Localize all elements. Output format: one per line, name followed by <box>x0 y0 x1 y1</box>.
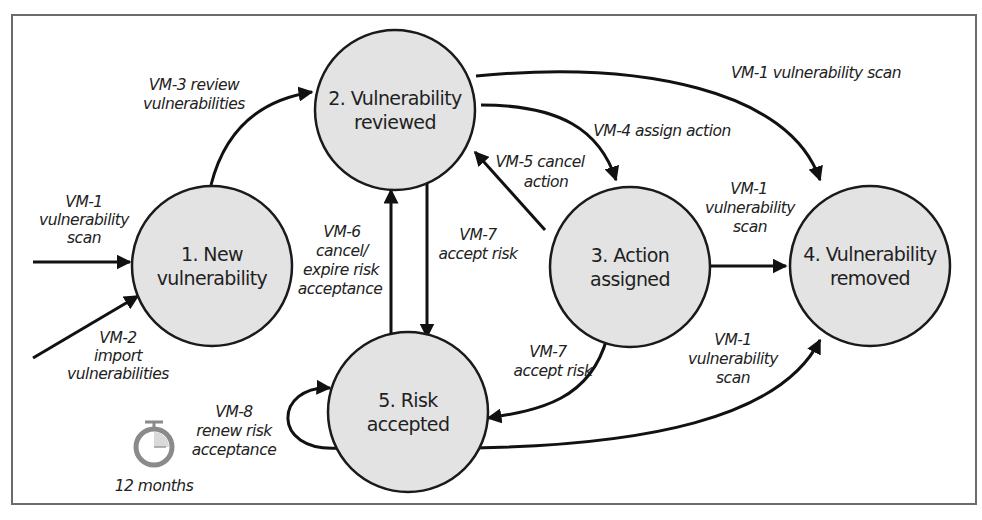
edge-label-vm2-import: VM-2 import vulnerabilities <box>67 329 169 383</box>
node-label-line2: accepted <box>367 413 450 435</box>
svg-text:acceptance: acceptance <box>192 441 276 459</box>
svg-text:acceptance: acceptance <box>298 280 382 298</box>
svg-text:VM-7: VM-7 <box>459 226 497 244</box>
node-label-line1: 2. Vulnerability <box>328 87 462 109</box>
svg-text:VM-4 assign action: VM-4 assign action <box>593 122 731 140</box>
edge-label-vm3-review: VM-3 review vulnerabilities <box>143 76 245 113</box>
svg-text:action: action <box>524 173 569 191</box>
svg-text:scan: scan <box>67 229 101 247</box>
edge-label-vm5-cancel: VM-5 cancel action <box>495 153 585 191</box>
svg-text:scan: scan <box>733 218 767 236</box>
svg-text:VM-1 vulnerability scan: VM-1 vulnerability scan <box>731 64 901 82</box>
svg-text:vulnerabilities: vulnerabilities <box>143 95 245 113</box>
svg-text:accept risk: accept risk <box>438 245 519 263</box>
edge-label-vm7-accept-from-assigned: VM-7 accept risk <box>513 343 594 380</box>
edge-label-vm7-accept-from-reviewed: VM-7 accept risk <box>438 226 519 263</box>
edge-label-vm1-reviewed-to-removed: VM-1 vulnerability scan <box>731 64 901 82</box>
timer-label: 12 months <box>115 477 194 495</box>
edge-label-vm4-assign: VM-4 assign action <box>593 122 731 140</box>
node-label-line2: removed <box>830 267 910 289</box>
svg-text:cancel/: cancel/ <box>316 242 370 260</box>
node-label-line1: 4. Vulnerability <box>803 243 937 265</box>
svg-text:import: import <box>94 347 144 365</box>
node-label-line2: assigned <box>590 268 670 290</box>
svg-text:accept risk: accept risk <box>513 362 594 380</box>
edge-label-vm1-external: VM-1 vulnerability scan <box>39 193 130 247</box>
svg-text:vulnerability: vulnerability <box>39 211 130 229</box>
svg-text:scan: scan <box>716 369 750 387</box>
svg-text:VM-6: VM-6 <box>323 223 361 241</box>
edge-label-vm1-assigned-to-removed: VM-1 vulnerability scan <box>705 180 796 236</box>
svg-text:vulnerability: vulnerability <box>705 199 796 217</box>
svg-text:VM-1: VM-1 <box>65 193 102 211</box>
svg-text:VM-1: VM-1 <box>714 331 751 349</box>
edge-label-vm1-accepted-to-removed: VM-1 vulnerability scan <box>688 331 779 387</box>
svg-text:VM-3 review: VM-3 review <box>149 76 240 94</box>
state-node-new-vulnerability: 1. New vulnerability <box>132 186 292 346</box>
vulnerability-state-diagram: 1. New vulnerability 2. Vulnerability re… <box>0 0 982 520</box>
edge-label-vm6-cancel-expire: VM-6 cancel/ expire risk acceptance <box>298 223 382 298</box>
svg-text:VM-1: VM-1 <box>730 180 767 198</box>
svg-text:VM-8: VM-8 <box>215 403 253 421</box>
svg-text:VM-2: VM-2 <box>99 329 136 347</box>
node-label-line1: 3. Action <box>591 244 669 266</box>
stopwatch-icon <box>136 422 172 465</box>
node-label-line2: reviewed <box>354 111 436 133</box>
svg-text:VM-7: VM-7 <box>529 343 567 361</box>
edge-label-vm8-renew: VM-8 renew risk acceptance <box>192 403 276 459</box>
state-node-risk-accepted: 5. Risk accepted <box>328 332 488 492</box>
svg-text:vulnerabilities: vulnerabilities <box>67 365 169 383</box>
state-node-vulnerability-removed: 4. Vulnerability removed <box>790 186 950 346</box>
svg-text:expire risk: expire risk <box>303 261 380 279</box>
node-label-line1: 1. New <box>181 243 243 265</box>
node-label-line1: 5. Risk <box>378 389 438 411</box>
state-node-action-assigned: 3. Action assigned <box>550 187 710 347</box>
svg-text:vulnerability: vulnerability <box>688 350 779 368</box>
node-label-line2: vulnerability <box>157 267 268 289</box>
svg-text:renew risk: renew risk <box>196 422 273 440</box>
state-node-vulnerability-reviewed: 2. Vulnerability reviewed <box>315 30 475 190</box>
svg-text:VM-5 cancel: VM-5 cancel <box>495 153 585 171</box>
